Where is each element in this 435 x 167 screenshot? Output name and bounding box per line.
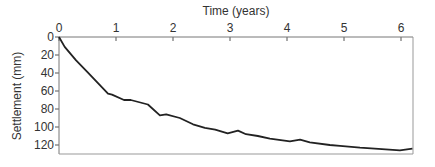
x-tick-label: 0 — [56, 21, 63, 35]
x-tick-label: 5 — [341, 21, 348, 35]
y-tick-label: 40 — [41, 66, 55, 80]
y-tick-label: 100 — [34, 120, 54, 134]
x-tick-label: 6 — [398, 21, 405, 35]
x-tick-label: 2 — [170, 21, 177, 35]
x-axis-title: Time (years) — [203, 4, 270, 18]
y-tick-label: 60 — [41, 84, 55, 98]
y-tick-label: 0 — [47, 30, 54, 44]
x-tick-label: 3 — [227, 21, 234, 35]
series-line-settlement — [59, 37, 412, 150]
y-tick-label: 80 — [41, 102, 55, 116]
series-group — [59, 37, 412, 150]
y-axis-title: Settlement (mm) — [10, 52, 24, 141]
settlement-chart: Time (years) Settlement (mm) 0123456 020… — [0, 0, 435, 167]
x-axis-ticks: 0123456 — [56, 21, 405, 41]
y-tick-label: 120 — [34, 138, 54, 152]
x-tick-label: 1 — [113, 21, 120, 35]
x-tick-label: 4 — [284, 21, 291, 35]
y-tick-label: 20 — [41, 48, 55, 62]
y-axis-ticks: 020406080100120 — [34, 30, 59, 152]
